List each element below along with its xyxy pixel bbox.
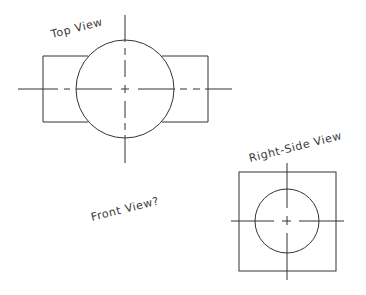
top-view: Top View [18, 15, 232, 163]
front-view-label: Front View? [90, 194, 161, 224]
right-side-view: Right-Side View [231, 129, 344, 280]
right-side-view-label: Right-Side View [248, 129, 344, 165]
orthographic-drawing: Top View Front View? Righ [0, 0, 366, 295]
top-view-label: Top View [49, 15, 105, 41]
